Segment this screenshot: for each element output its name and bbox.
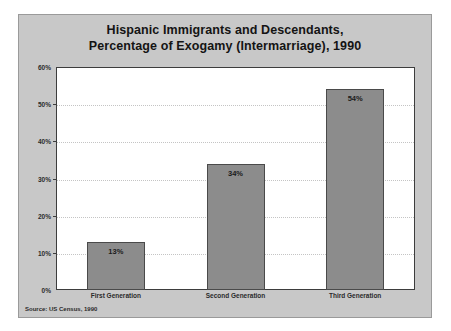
y-axis-tick-label: 0% bbox=[42, 287, 51, 294]
y-axis-tick-label: 50% bbox=[38, 101, 51, 108]
source-note: Source: US Census, 1990 bbox=[25, 306, 97, 312]
gridline bbox=[57, 254, 414, 255]
y-axis-tick-label: 40% bbox=[38, 138, 51, 145]
x-axis-tick-label: Second Generation bbox=[206, 292, 266, 299]
chart-title-line-1: Hispanic Immigrants and Descendants, bbox=[19, 22, 431, 38]
gridlines bbox=[57, 68, 414, 289]
y-axis-tick-label: 20% bbox=[38, 212, 51, 219]
x-axis: First GenerationSecond GenerationThird G… bbox=[56, 292, 415, 306]
x-axis-tick-label: Third Generation bbox=[329, 292, 381, 299]
y-axis: 0%10%20%30%40%50%60% bbox=[19, 67, 56, 290]
y-axis-tick-label: 10% bbox=[38, 249, 51, 256]
chart-title: Hispanic Immigrants and Descendants, Per… bbox=[19, 22, 431, 54]
chart-title-line-2: Percentage of Exogamy (Intermarriage), 1… bbox=[19, 38, 431, 54]
gridline bbox=[57, 105, 414, 106]
gridline bbox=[57, 142, 414, 143]
gridline bbox=[57, 180, 414, 181]
plot-area bbox=[56, 67, 415, 290]
gridline bbox=[57, 217, 414, 218]
chart-figure: Hispanic Immigrants and Descendants, Per… bbox=[18, 14, 432, 318]
y-axis-tick-label: 30% bbox=[38, 175, 51, 182]
x-axis-tick-label: First Generation bbox=[91, 292, 141, 299]
y-axis-tick-label: 60% bbox=[38, 64, 51, 71]
